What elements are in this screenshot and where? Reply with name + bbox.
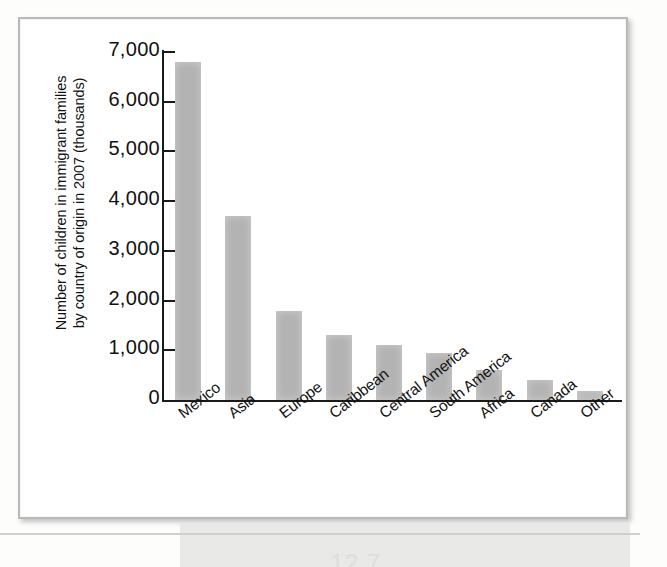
bar	[175, 62, 201, 400]
bar-chart: Number of children in immigrant families…	[0, 0, 667, 567]
y-axis-tick-label: 7,000	[52, 38, 160, 61]
y-axis-tick-labels: 01,0002,0003,0004,0005,0006,0007,000	[10, 0, 160, 460]
y-axis-tick	[164, 349, 175, 351]
y-axis-tick-label: 5,000	[52, 137, 160, 160]
bar	[276, 311, 302, 400]
y-axis-tick	[164, 200, 175, 202]
y-axis-tick-label: 4,000	[52, 187, 160, 210]
y-axis-tick-label: 0	[52, 386, 160, 409]
y-axis-tick-label: 2,000	[52, 287, 160, 310]
y-axis-tick-label: 1,000	[52, 336, 160, 359]
bar	[225, 216, 251, 400]
y-axis-tick	[164, 101, 175, 103]
y-axis-tick-label: 3,000	[52, 237, 160, 260]
y-axis-tick	[164, 51, 175, 53]
y-axis-tick-label: 6,000	[52, 88, 160, 111]
y-axis-tick	[164, 250, 175, 252]
y-axis-tick	[164, 300, 175, 302]
y-axis-line	[162, 50, 164, 402]
y-axis-tick	[164, 150, 175, 152]
